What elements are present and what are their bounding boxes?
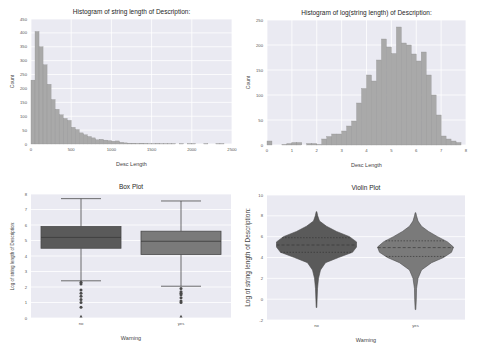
violin-plot: Violin PlotWarningLog of string length o… bbox=[240, 175, 478, 349]
y-tick-label: 150 bbox=[256, 68, 264, 73]
x-tick-label: 500 bbox=[68, 147, 76, 152]
histogram-bar bbox=[327, 137, 332, 146]
histogram-bar bbox=[317, 145, 322, 146]
y-tick-label: 7 bbox=[25, 207, 28, 212]
x-tick-label: 2000 bbox=[187, 147, 197, 152]
violin-plot-chart: Violin PlotWarningLog of string length o… bbox=[240, 175, 478, 349]
x-tick-label: 1000 bbox=[107, 147, 117, 152]
y-tick-label: 6 bbox=[25, 223, 28, 228]
histogram-bar bbox=[411, 54, 416, 145]
y-tick-label: 0 bbox=[261, 143, 264, 148]
y-tick-label: 400 bbox=[20, 30, 28, 35]
histogram-bar bbox=[75, 130, 79, 144]
histogram-bar bbox=[371, 81, 376, 145]
histogram-bar bbox=[156, 143, 160, 144]
x-tick-label: 1500 bbox=[147, 147, 157, 152]
histogram-bar bbox=[111, 141, 115, 144]
outlier-marker bbox=[80, 306, 83, 309]
histogram-bar bbox=[55, 109, 59, 144]
histogram-bar bbox=[282, 145, 287, 146]
y-tick-label: 10 bbox=[258, 193, 263, 198]
outlier-marker bbox=[180, 293, 183, 296]
histogram-bar bbox=[99, 139, 103, 144]
y-tick-label: 0 bbox=[25, 142, 28, 147]
histogram-bar bbox=[39, 47, 43, 144]
y-tick-label: 4 bbox=[261, 255, 264, 260]
outlier-marker bbox=[80, 289, 83, 292]
histogram-bar bbox=[337, 134, 342, 145]
x-axis-label: Warning bbox=[356, 337, 376, 343]
histogram-bar bbox=[43, 65, 47, 144]
histogram-bar bbox=[51, 100, 55, 144]
y-tick-label: 0 bbox=[261, 297, 264, 302]
histogram-bar bbox=[441, 136, 446, 145]
x-tick-label: 4 bbox=[365, 148, 368, 153]
histogram-bar bbox=[31, 80, 35, 144]
histogram-bar bbox=[127, 143, 131, 144]
y-tick-label: 100 bbox=[20, 114, 28, 119]
y-tick-label: 250 bbox=[256, 18, 264, 23]
y-axis-label: Log of string length of Description: bbox=[10, 222, 15, 290]
histogram-bar bbox=[456, 143, 461, 146]
y-tick-label: 200 bbox=[20, 86, 28, 91]
y-axis-label: Count bbox=[9, 74, 15, 88]
y-tick-label: 8 bbox=[261, 213, 264, 218]
histogram-bar bbox=[267, 141, 272, 145]
y-tick-label: 1 bbox=[25, 300, 28, 305]
outlier-marker bbox=[80, 295, 83, 298]
histogram-bar bbox=[426, 75, 431, 145]
box-plot-chart: Box PlotWarningLog of string length of D… bbox=[0, 175, 240, 349]
y-tick-label: 300 bbox=[20, 58, 28, 63]
x-tick-label: 0 bbox=[266, 148, 269, 153]
y-tick-label: 250 bbox=[20, 72, 28, 77]
y-tick-label: 4 bbox=[25, 254, 28, 259]
histogram-bar bbox=[347, 126, 352, 145]
x-tick-label: 2500 bbox=[227, 147, 237, 152]
histogram-bar bbox=[83, 135, 87, 144]
histogram-desc-length: Histogram of string length of Descriptio… bbox=[0, 0, 240, 175]
histogram-bar bbox=[132, 143, 136, 144]
histogram-bar bbox=[87, 137, 91, 145]
x-tick-label: yes bbox=[178, 321, 185, 326]
x-axis-label: Desc Length bbox=[116, 161, 147, 167]
histogram-bar bbox=[376, 60, 381, 145]
y-tick-label: 450 bbox=[20, 17, 28, 22]
outlier-marker bbox=[180, 301, 183, 304]
x-tick-label: 1 bbox=[291, 148, 294, 153]
histogram-bar bbox=[312, 144, 317, 146]
histogram-bar bbox=[107, 141, 111, 144]
histogram-bar bbox=[292, 143, 297, 146]
x-tick-label: no bbox=[314, 323, 319, 328]
y-tick-label: 5 bbox=[25, 238, 28, 243]
y-tick-label: -2 bbox=[259, 318, 263, 323]
histogram-bar bbox=[396, 27, 401, 145]
histogram-bar bbox=[342, 131, 347, 145]
outlier-marker bbox=[80, 301, 83, 304]
x-tick-label: yes bbox=[412, 323, 419, 328]
histogram-bar bbox=[446, 139, 451, 145]
y-tick-label: 50 bbox=[22, 128, 27, 133]
histogram-bar bbox=[401, 43, 406, 145]
outlier-marker bbox=[180, 296, 183, 299]
x-tick-label: 5 bbox=[390, 148, 393, 153]
histogram-bar bbox=[115, 141, 119, 144]
histogram-bar bbox=[103, 140, 107, 144]
histogram-bar bbox=[59, 115, 63, 144]
y-axis-label: Log of string length of Description: bbox=[244, 208, 252, 307]
x-tick-label: 3 bbox=[340, 148, 343, 153]
x-tick-label: 0 bbox=[30, 147, 33, 152]
x-axis-label: Warning bbox=[121, 335, 141, 341]
histogram-bar bbox=[140, 143, 144, 144]
histogram-bar bbox=[67, 120, 71, 144]
y-tick-label: 50 bbox=[258, 118, 263, 123]
histogram-bar bbox=[136, 143, 140, 144]
x-tick-label: 8 bbox=[465, 148, 468, 153]
chart-title: Histogram of log(string length) of Descr… bbox=[301, 9, 432, 17]
histogram-bar bbox=[406, 45, 411, 145]
outlier-marker bbox=[80, 282, 83, 285]
histogram-bar bbox=[451, 141, 456, 145]
chart-title: Violin Plot bbox=[352, 184, 381, 191]
histogram-bar bbox=[119, 142, 123, 144]
box-yes bbox=[141, 231, 221, 254]
outlier-marker bbox=[180, 287, 183, 290]
